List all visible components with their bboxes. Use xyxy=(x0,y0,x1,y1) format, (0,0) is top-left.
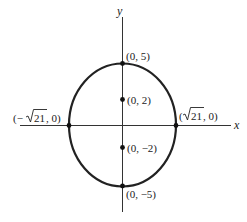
right-intercept-label-suffix: , 0) xyxy=(203,110,218,123)
x-axis-label: x xyxy=(233,118,240,132)
left-intercept-label: (− 21 , 0) xyxy=(13,110,61,126)
right-intercept-point xyxy=(174,123,179,128)
top-vertex-point xyxy=(120,61,125,66)
right-intercept-label: ( 21 , 0) xyxy=(179,108,218,124)
lower-focus-label: (0, −2) xyxy=(127,142,157,155)
bottom-vertex-point xyxy=(120,184,125,189)
y-axis-label: y xyxy=(116,4,123,18)
right-intercept-label-prefix: ( xyxy=(179,110,183,123)
ellipse-diagram: y x (0, 5) (0, 2) (0, −2) (0, −5) (− 21 … xyxy=(0,0,247,222)
bottom-vertex-label: (0, −5) xyxy=(126,188,156,201)
top-vertex-label: (0, 5) xyxy=(126,50,150,63)
left-intercept-point xyxy=(67,123,72,128)
left-intercept-label-prefix: (− xyxy=(13,112,23,125)
lower-focus-point xyxy=(120,145,125,150)
upper-focus-point xyxy=(120,97,125,102)
upper-focus-label: (0, 2) xyxy=(127,94,151,107)
left-intercept-label-radicand: 21 xyxy=(34,112,45,124)
left-intercept-label-suffix: , 0) xyxy=(46,112,61,125)
right-intercept-label-radicand: 21 xyxy=(191,110,202,122)
